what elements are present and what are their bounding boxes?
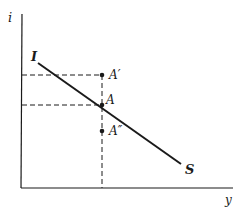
point-a-prime-label: A′ — [108, 68, 121, 82]
y-axis-label: i — [8, 10, 12, 25]
point-a-label: A — [105, 93, 115, 107]
curve-start-label: I — [30, 49, 38, 64]
x-axis-label: y — [224, 193, 232, 207]
is-diagram: i y I S A′ A A″ — [0, 0, 245, 217]
curve-end-label: S — [185, 162, 194, 177]
point-a-double-prime — [100, 129, 105, 134]
point-a-prime — [100, 73, 105, 78]
point-a-double-prime-label: A″ — [108, 124, 123, 138]
y-axis — [21, 14, 22, 188]
point-a — [100, 103, 105, 108]
